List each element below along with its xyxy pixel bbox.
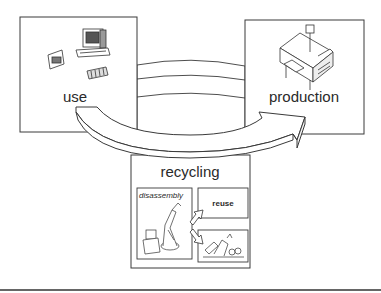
lifecycle-diagram: use production recycling disassembly [0, 0, 381, 293]
reuse-box: reuse [198, 188, 248, 218]
recycling-node: recycling disassembly reuse [131, 155, 250, 268]
disassembly-label: disassembly [139, 191, 184, 200]
production-label: production [269, 88, 339, 105]
return-band [137, 60, 245, 130]
reuse-label: reuse [212, 199, 234, 208]
disassembly-box: disassembly [137, 188, 192, 259]
use-label: use [63, 88, 87, 105]
material-box [198, 230, 248, 262]
recycling-label: recycling [160, 163, 219, 180]
